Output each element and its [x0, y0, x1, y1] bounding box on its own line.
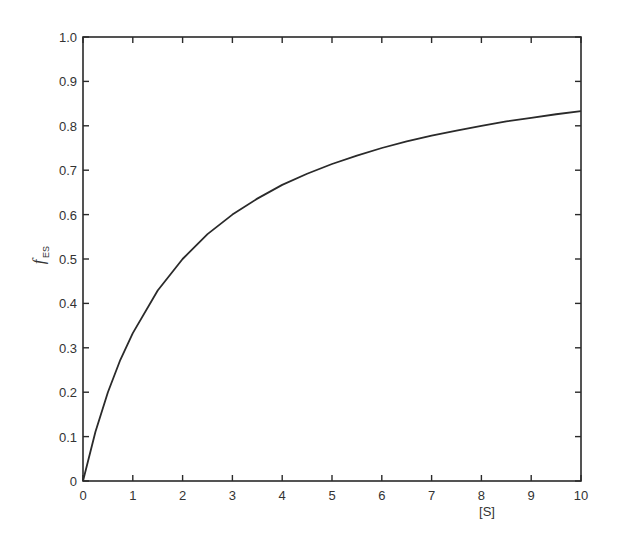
x-tick-label: 10: [574, 488, 588, 503]
x-tick-label: 6: [378, 488, 385, 503]
x-tick-label: 9: [528, 488, 535, 503]
y-tick-label: 0.8: [59, 119, 77, 134]
x-tick-label: 7: [428, 488, 435, 503]
x-tick-label: 5: [328, 488, 335, 503]
x-tick-label: 0: [79, 488, 86, 503]
y-tick-label: 0.7: [59, 163, 77, 178]
x-axis: 012345678910: [79, 37, 588, 503]
data-line: [83, 111, 581, 481]
x-axis-title: [S]: [479, 504, 495, 519]
x-tick-label: 1: [129, 488, 136, 503]
y-tick-label: 0.5: [59, 252, 77, 267]
y-tick-label: 1.0: [59, 30, 77, 45]
y-tick-label: 0.2: [59, 385, 77, 400]
y-tick-label: 0: [70, 474, 77, 489]
y-tick-label: 0.9: [59, 74, 77, 89]
x-tick-label: 2: [179, 488, 186, 503]
y-tick-label: 0.3: [59, 341, 77, 356]
plot-frame: [83, 37, 581, 481]
y-axis-title: f ES: [29, 246, 51, 264]
y-axis: 00.10.20.30.40.50.60.70.80.91.0: [59, 30, 581, 489]
chart-canvas: f ES 00.10.20.30.40.50.60.70.80.91.0 012…: [0, 0, 618, 546]
x-tick-label: 8: [478, 488, 485, 503]
y-tick-label: 0.4: [59, 296, 77, 311]
y-tick-label: 0.6: [59, 208, 77, 223]
x-tick-label: 3: [229, 488, 236, 503]
x-tick-label: 4: [279, 488, 286, 503]
y-axis-title-subscript: ES: [41, 246, 51, 258]
y-tick-label: 0.1: [59, 430, 77, 445]
